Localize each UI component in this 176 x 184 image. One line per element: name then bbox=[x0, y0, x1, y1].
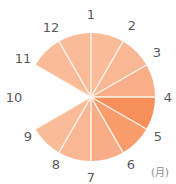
month-label-8: 8 bbox=[52, 158, 60, 171]
month-wedge-chart bbox=[0, 0, 176, 184]
month-label-11: 11 bbox=[15, 52, 32, 65]
month-label-7: 7 bbox=[87, 171, 95, 184]
month-label-6: 6 bbox=[127, 158, 135, 171]
month-label-2: 2 bbox=[128, 19, 136, 32]
month-label-5: 5 bbox=[154, 130, 162, 143]
unit-label: (月) bbox=[151, 164, 169, 179]
month-label-9: 9 bbox=[24, 130, 32, 143]
month-label-1: 1 bbox=[87, 8, 95, 21]
month-label-12: 12 bbox=[43, 21, 60, 34]
month-label-3: 3 bbox=[153, 46, 161, 59]
month-label-10: 10 bbox=[6, 91, 23, 104]
month-label-4: 4 bbox=[164, 91, 172, 104]
